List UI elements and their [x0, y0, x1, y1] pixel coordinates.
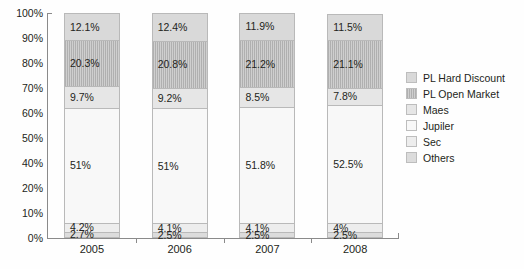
bar-segment-value-label: 2.5% — [153, 230, 182, 241]
bar-segment-pl-hard-discount[interactable]: 12.1% — [64, 13, 120, 40]
legend-item[interactable]: Others — [406, 150, 505, 165]
y-axis-tick-label: 20% — [22, 183, 43, 194]
y-axis-tick-label: 10% — [22, 208, 43, 219]
bar-stack: 11.5%21.1%7.8%52.5%4%2.5% — [327, 14, 383, 238]
bar-segment-value-label: 2.7% — [65, 229, 94, 240]
legend: PL Hard DiscountPL Open MarketMaesJupile… — [406, 70, 505, 166]
bar-segment-value-label: 21.2% — [240, 59, 275, 70]
x-axis-divider-tick — [311, 238, 312, 243]
y-axis-tick-label: 60% — [22, 108, 43, 119]
legend-item-label: Others — [423, 152, 455, 164]
bar-segment-pl-open-market[interactable]: 20.8% — [152, 41, 208, 88]
bar-stack: 12.4%20.8%9.2%51%4.1%2.5% — [152, 13, 208, 238]
bar-stack: 11.9%21.2%8.5%51.8%4.1%2.5% — [239, 13, 295, 238]
x-axis-tick-label: 2005 — [48, 243, 136, 256]
x-axis-tick-label: 2006 — [136, 243, 224, 256]
bar-segment-value-label: 11.5% — [328, 22, 362, 33]
legend-swatch-pl-open-market — [406, 88, 417, 99]
bar-segment-pl-open-market[interactable]: 21.1% — [327, 40, 383, 87]
bar-segment-value-label: 12.1% — [65, 22, 100, 33]
bar-segment-pl-hard-discount[interactable]: 11.5% — [327, 14, 383, 40]
legend-swatch-maes — [406, 104, 417, 115]
x-axis-tick-label: 2007 — [224, 243, 312, 256]
bar-segment-value-label: 51% — [153, 161, 179, 172]
bar-stack: 12.1%20.3%9.7%51%4.2%2.7% — [64, 13, 120, 238]
stacked-bar-chart: 100%90%80%70%60%50%40%20%10%0% 12.1%20.3… — [0, 0, 524, 269]
bar-segment-pl-open-market[interactable]: 21.2% — [239, 40, 295, 88]
bar-segment-value-label: 20.3% — [65, 58, 100, 69]
bar-group[interactable]: 11.5%21.1%7.8%52.5%4%2.5% — [327, 13, 383, 238]
bar-segment-value-label: 51% — [65, 160, 91, 171]
bar-segment-maes[interactable]: 8.5% — [239, 87, 295, 106]
y-axis-tick-label: 40% — [22, 158, 43, 169]
bar-segment-maes[interactable]: 9.7% — [64, 86, 120, 108]
legend-item[interactable]: PL Open Market — [406, 86, 505, 101]
x-axis: 2005200620072008 — [48, 243, 399, 263]
bar-group[interactable]: 12.1%20.3%9.7%51%4.2%2.7% — [64, 13, 120, 238]
legend-swatch-jupiler — [406, 120, 417, 131]
bar-segment-others[interactable]: 2.5% — [239, 232, 295, 238]
legend-item-label: PL Hard Discount — [423, 72, 505, 84]
bar-group[interactable]: 12.4%20.8%9.2%51%4.1%2.5% — [152, 13, 208, 238]
legend-item-label: Maes — [423, 104, 449, 116]
y-axis-tick-label: 100% — [16, 8, 43, 19]
bar-segment-value-label: 11.9% — [240, 21, 274, 32]
plot-area: 12.1%20.3%9.7%51%4.2%2.7%12.4%20.8%9.2%5… — [48, 13, 399, 238]
x-axis-tick-label: 2008 — [311, 243, 399, 256]
bar-segment-others[interactable]: 2.7% — [64, 232, 120, 238]
bar-segment-pl-hard-discount[interactable]: 11.9% — [239, 13, 295, 40]
bar-segment-value-label: 52.5% — [328, 159, 363, 170]
bar-segment-value-label: 7.8% — [328, 91, 357, 102]
y-axis-tick-label: 90% — [22, 33, 43, 44]
bar-segment-value-label: 9.7% — [65, 92, 94, 103]
bar-segment-pl-hard-discount[interactable]: 12.4% — [152, 13, 208, 41]
bar-segment-value-label: 2.5% — [328, 230, 357, 241]
y-axis-tick-label: 80% — [22, 58, 43, 69]
y-axis: 100%90%80%70%60%50%40%20%10%0% — [0, 0, 46, 269]
bar-segment-value-label: 21.1% — [328, 59, 363, 70]
legend-item-label: Sec — [423, 136, 441, 148]
bar-segment-maes[interactable]: 7.8% — [327, 88, 383, 106]
y-axis-tick-label: 0% — [28, 233, 43, 244]
legend-item[interactable]: Maes — [406, 102, 505, 117]
legend-item-label: Jupiler — [423, 120, 454, 132]
bar-segment-pl-open-market[interactable]: 20.3% — [64, 40, 120, 86]
bar-segment-value-label: 9.2% — [153, 93, 182, 104]
bar-segment-others[interactable]: 2.5% — [327, 232, 383, 238]
legend-swatch-sec — [406, 136, 417, 147]
legend-swatch-pl-hard-discount — [406, 72, 417, 83]
bar-segment-value-label: 2.5% — [240, 230, 269, 241]
bar-segment-value-label: 51.8% — [240, 160, 275, 171]
y-axis-tick-label: 70% — [22, 83, 43, 94]
legend-item[interactable]: Jupiler — [406, 118, 505, 133]
bar-segment-jupiler[interactable]: 51% — [64, 108, 120, 223]
y-axis-tick-label: 50% — [22, 133, 43, 144]
legend-item-label: PL Open Market — [423, 88, 499, 100]
bar-segment-value-label: 20.8% — [153, 59, 188, 70]
bar-segment-jupiler[interactable]: 51% — [152, 108, 208, 223]
bar-segment-jupiler[interactable]: 52.5% — [327, 105, 383, 223]
x-axis-divider-tick — [136, 238, 137, 243]
legend-swatch-others — [406, 152, 417, 163]
bar-segment-value-label: 8.5% — [240, 92, 269, 103]
bar-segment-maes[interactable]: 9.2% — [152, 88, 208, 109]
bar-segment-others[interactable]: 2.5% — [152, 232, 208, 238]
legend-item[interactable]: PL Hard Discount — [406, 70, 505, 85]
legend-item[interactable]: Sec — [406, 134, 505, 149]
bar-group[interactable]: 11.9%21.2%8.5%51.8%4.1%2.5% — [239, 13, 295, 238]
bar-segment-value-label: 12.4% — [153, 22, 188, 33]
bar-segment-jupiler[interactable]: 51.8% — [239, 107, 295, 224]
x-axis-divider-tick — [224, 238, 225, 243]
